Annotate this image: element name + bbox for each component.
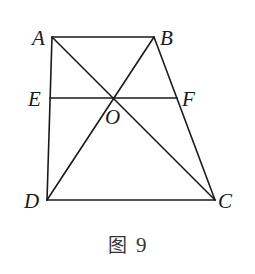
label-d: D <box>23 189 39 213</box>
segment-da <box>47 37 52 200</box>
label-f: F <box>181 87 195 111</box>
trapezoid-diagram: A B E F O D C 图 9 <box>0 0 255 274</box>
label-c: C <box>218 189 233 213</box>
figure-caption-number: 9 <box>136 233 147 257</box>
diagonal-bd <box>47 37 154 200</box>
segment-bc <box>154 37 215 200</box>
label-a: A <box>30 26 45 50</box>
diagonal-ac <box>52 37 215 200</box>
label-b: B <box>160 26 173 50</box>
label-e: E <box>27 87 41 111</box>
figure-caption-char: 图 <box>108 234 127 256</box>
label-o: O <box>105 105 120 129</box>
